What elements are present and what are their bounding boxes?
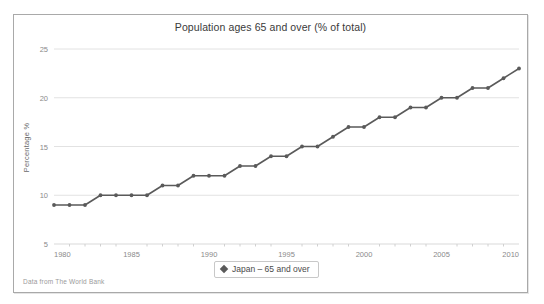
data-point-marker <box>99 193 103 197</box>
data-point-marker <box>471 86 475 90</box>
data-point-marker <box>176 184 180 188</box>
data-point-marker <box>316 145 320 149</box>
diamond-marker-icon <box>220 265 228 273</box>
x-tick-label: 2000 <box>356 250 373 259</box>
data-point-marker <box>161 184 165 188</box>
x-tick-label: 2010 <box>502 250 519 259</box>
data-point-marker <box>192 174 196 178</box>
data-point-marker <box>114 193 118 197</box>
data-point-marker <box>52 203 56 207</box>
data-point-marker <box>502 76 506 80</box>
x-tick-label: 1990 <box>201 250 218 259</box>
series-line <box>54 69 519 206</box>
data-point-marker <box>331 135 335 139</box>
y-tick-label: 10 <box>40 191 48 200</box>
y-tick-label: 20 <box>40 94 48 103</box>
y-tick-label: 15 <box>40 143 48 152</box>
data-point-marker <box>130 193 134 197</box>
data-point-marker <box>269 154 273 158</box>
data-point-marker <box>223 174 227 178</box>
x-tick-label: 1995 <box>278 250 295 259</box>
line-chart-svg: 5101520251980198519901995200020052010 <box>14 15 529 294</box>
data-point-marker <box>238 164 242 168</box>
x-tick-label: 1980 <box>54 250 71 259</box>
data-point-marker <box>285 154 289 158</box>
data-point-marker <box>300 145 304 149</box>
data-point-marker <box>517 67 521 71</box>
data-point-marker <box>409 106 413 110</box>
data-point-marker <box>362 125 366 129</box>
source-note: Data from The World Bank <box>23 278 105 285</box>
data-point-marker <box>83 203 87 207</box>
x-tick-label: 1985 <box>123 250 140 259</box>
data-point-marker <box>68 203 72 207</box>
legend-item-label: Japan – 65 and over <box>232 264 310 274</box>
data-point-marker <box>254 164 258 168</box>
chart-frame: Population ages 65 and over (% of total)… <box>13 14 528 293</box>
y-tick-label: 5 <box>44 240 48 249</box>
data-point-marker <box>207 174 211 178</box>
data-point-marker <box>393 115 397 119</box>
x-tick-label: 2005 <box>433 250 450 259</box>
data-point-marker <box>378 115 382 119</box>
data-point-marker <box>145 193 149 197</box>
data-point-marker <box>455 96 459 100</box>
data-point-marker <box>486 86 490 90</box>
data-point-marker <box>440 96 444 100</box>
chart-legend[interactable]: Japan – 65 and over <box>214 261 319 278</box>
y-tick-label: 25 <box>40 45 48 54</box>
plot-area: 5101520251980198519901995200020052010 <box>14 15 529 294</box>
data-point-marker <box>424 106 428 110</box>
cut-off-text-above-frame <box>62 0 312 3</box>
data-point-marker <box>347 125 351 129</box>
